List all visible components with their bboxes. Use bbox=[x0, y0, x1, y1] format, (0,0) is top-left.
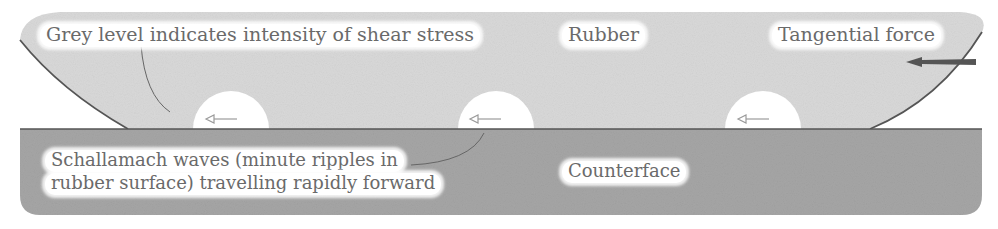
shear-stress-label: Grey level indicates intensity of shear … bbox=[40, 24, 480, 47]
tangential-force-label: Tangential force bbox=[772, 24, 941, 47]
rubber-label: Rubber bbox=[562, 24, 645, 47]
schallamach-wave-diagram: Grey level indicates intensity of shear … bbox=[0, 0, 998, 229]
schallamach-waves-label-line2: rubber surface) travelling rapidly forwa… bbox=[45, 173, 441, 195]
schallamach-waves-label-line1: Schallamach waves (minute ripples in bbox=[45, 150, 404, 172]
counterface-label: Counterface bbox=[562, 161, 686, 183]
